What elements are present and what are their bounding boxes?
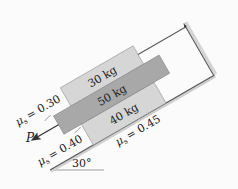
incline-diagram: 40 kg 30 kg 50 kg μs= 0.30 μs= 0.40 μs= …: [0, 0, 238, 189]
cable: [138, 27, 186, 55]
wall: [184, 24, 214, 76]
leader-line-030: [44, 115, 52, 121]
wall-shadow: [184, 22, 217, 76]
mu-030-label: μs= 0.30: [13, 92, 63, 129]
force-arrow: [36, 125, 59, 138]
angle-label: 30°: [72, 157, 92, 170]
force-p-label: P: [25, 131, 35, 145]
